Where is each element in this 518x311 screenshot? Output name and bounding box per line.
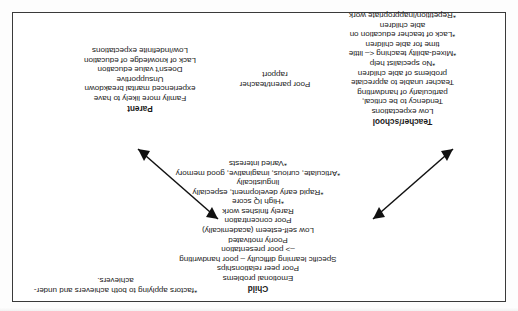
teacher-item-11: *Repetition/inappropriate work bbox=[295, 11, 510, 21]
parent-item-6: Low/indefinite expectations bbox=[34, 45, 246, 55]
rapport-line-1: Poor parent/teacher bbox=[210, 79, 340, 89]
arrow-child-teacher-school bbox=[363, 139, 463, 229]
block-teacher-school: Teacher/school Low expectations Tendency… bbox=[295, 11, 510, 126]
teacher-item-2: Tendency to be critical, bbox=[295, 97, 510, 107]
child-item-5: Poorly motivated bbox=[133, 235, 383, 245]
child-item-1: Emotional problems bbox=[133, 273, 383, 283]
teacher-item-6: *No specialist help bbox=[295, 58, 510, 68]
teacher-item-10: able children bbox=[295, 20, 510, 30]
block-parent-heading: Parent bbox=[34, 103, 246, 113]
arrow-child-parent bbox=[128, 139, 228, 229]
block-teacher-school-heading: Teacher/school bbox=[295, 116, 510, 126]
parent-item-1: Family more likely to have bbox=[34, 93, 246, 103]
block-child-heading: Child bbox=[133, 283, 383, 293]
teacher-item-7: *Mixed-ability teaching <– little bbox=[295, 49, 510, 59]
scan-edge-artifact bbox=[0, 307, 518, 311]
child-item-4: –> poor presentation bbox=[133, 245, 383, 255]
child-item-3: Specific learning difficulty – poor hand… bbox=[133, 254, 383, 264]
rapport-line-2: rapport bbox=[210, 70, 340, 80]
child-item-2: Poor peer relationships bbox=[133, 264, 383, 274]
teacher-item-8: time for able children bbox=[295, 39, 510, 49]
block-parent-teacher-rapport: Poor parent/teacher rapport bbox=[210, 70, 340, 89]
teacher-item-1: Low expectations bbox=[295, 106, 510, 116]
teacher-item-9: *Lack of teacher education on bbox=[295, 30, 510, 40]
parent-item-5: Lack of knowledge of education bbox=[34, 55, 246, 65]
scanned-page: *factors applying to both achievers and … bbox=[0, 0, 518, 311]
